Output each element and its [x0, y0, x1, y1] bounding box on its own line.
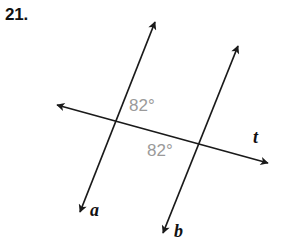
line-label-b: b [174, 222, 183, 240]
angle-label-bottom: 82° [147, 142, 173, 159]
angle-label-top: 82° [129, 97, 155, 114]
geometry-figure: 21. 82° 82° a b t [0, 0, 292, 251]
line-label-a: a [90, 201, 99, 219]
problem-number: 21. [5, 6, 28, 23]
figure-canvas [0, 0, 292, 251]
line-label-t: t [253, 128, 258, 146]
line-a [80, 22, 155, 212]
line-b [163, 46, 238, 233]
